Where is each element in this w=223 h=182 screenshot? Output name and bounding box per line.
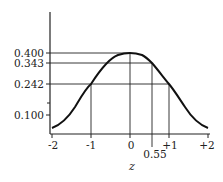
y-label-0343: 0.343 <box>14 57 44 69</box>
reference-lines <box>50 53 169 147</box>
x-label-minus-2: -2 <box>48 139 58 151</box>
x-ticks <box>52 134 208 138</box>
x-label-055: 0.55 <box>143 148 166 160</box>
x-axis-title: z <box>128 160 135 173</box>
normal-curve-chart: 0.400 0.343 0.242 0.100 -2 -1 0 +1 +2 0.… <box>0 0 223 182</box>
x-label-0: 0 <box>128 139 135 151</box>
y-label-0242: 0.242 <box>14 78 44 90</box>
x-label-minus-1: -1 <box>86 139 96 151</box>
y-label-0100: 0.100 <box>14 109 44 121</box>
x-label-plus-2: +2 <box>199 139 214 151</box>
